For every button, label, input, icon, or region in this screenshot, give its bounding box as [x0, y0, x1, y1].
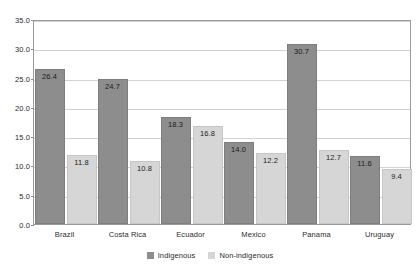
x-axis-tick-label: Brazil	[55, 230, 74, 239]
legend-swatch-icon	[147, 252, 154, 259]
chart-legend: IndigenousNon-indigenous	[0, 251, 420, 260]
bar-value-label: 26.4	[36, 73, 64, 81]
bar-value-label: 12.7	[320, 154, 348, 162]
bar-value-label: 18.3	[162, 121, 190, 129]
bar-group: 14.012.2	[223, 21, 286, 224]
bar[interactable]: 10.8	[130, 161, 160, 224]
y-axis-tick-label: 10.0	[15, 162, 30, 171]
y-axis-tick-label: 35.0	[15, 16, 30, 25]
legend-item-label: Indigenous	[158, 251, 196, 260]
x-axis-tick-label: Costa Rica	[109, 230, 147, 239]
bar-group: 30.712.7	[286, 21, 349, 224]
bar[interactable]: 16.8	[193, 126, 223, 224]
bars-layer: 26.411.824.710.818.316.814.012.230.712.7…	[34, 21, 410, 224]
bar[interactable]: 11.6	[350, 156, 380, 224]
bar-group: 18.316.8	[160, 21, 223, 224]
legend-item[interactable]: Indigenous	[147, 251, 196, 260]
x-axis-tick-label: Uruguay	[365, 230, 394, 239]
x-axis: BrazilCosta RicaEcuadorMexicoPanamaUrugu…	[33, 226, 411, 242]
y-axis-tick-label: 5.0	[19, 191, 30, 200]
legend-item[interactable]: Non-indigenous	[208, 251, 273, 260]
x-axis-tick-label: Panama	[302, 230, 331, 239]
y-axis: 0.05.010.015.020.025.030.035.0	[0, 20, 30, 225]
bar-value-label: 14.0	[225, 146, 253, 154]
y-axis-tick-label: 0.0	[19, 221, 30, 230]
bar[interactable]: 14.0	[224, 142, 254, 224]
legend-swatch-icon	[208, 252, 215, 259]
bar[interactable]: 30.7	[287, 44, 317, 224]
legend-item-label: Non-indigenous	[219, 251, 273, 260]
bar[interactable]: 12.2	[256, 153, 286, 224]
x-axis-tick-label: Mexico	[241, 230, 265, 239]
bar-value-label: 12.2	[257, 157, 285, 165]
bar-group: 26.411.8	[34, 21, 97, 224]
bar-value-label: 24.7	[99, 83, 127, 91]
bar-value-label: 9.4	[383, 173, 411, 181]
bar[interactable]: 12.7	[319, 150, 349, 224]
plot-area: 26.411.824.710.818.316.814.012.230.712.7…	[33, 20, 411, 225]
y-axis-tick-label: 25.0	[15, 74, 30, 83]
bar-value-label: 30.7	[288, 48, 316, 56]
bar-group: 24.710.8	[97, 21, 160, 224]
bar-value-label: 11.8	[68, 159, 96, 167]
bar[interactable]: 11.8	[67, 155, 97, 224]
bar-group: 11.69.4	[349, 21, 412, 224]
bar[interactable]: 9.4	[382, 169, 412, 224]
y-axis-tick-label: 30.0	[15, 45, 30, 54]
bar-value-label: 16.8	[194, 130, 222, 138]
bar-chart: 0.05.010.015.020.025.030.035.0 26.411.82…	[0, 0, 420, 273]
y-axis-tick-label: 15.0	[15, 133, 30, 142]
bar[interactable]: 18.3	[161, 117, 191, 224]
y-axis-tick-label: 20.0	[15, 103, 30, 112]
bar-value-label: 10.8	[131, 165, 159, 173]
bar[interactable]: 26.4	[35, 69, 65, 224]
x-axis-tick-label: Ecuador	[176, 230, 205, 239]
bar-value-label: 11.6	[351, 160, 379, 168]
bar[interactable]: 24.7	[98, 79, 128, 224]
